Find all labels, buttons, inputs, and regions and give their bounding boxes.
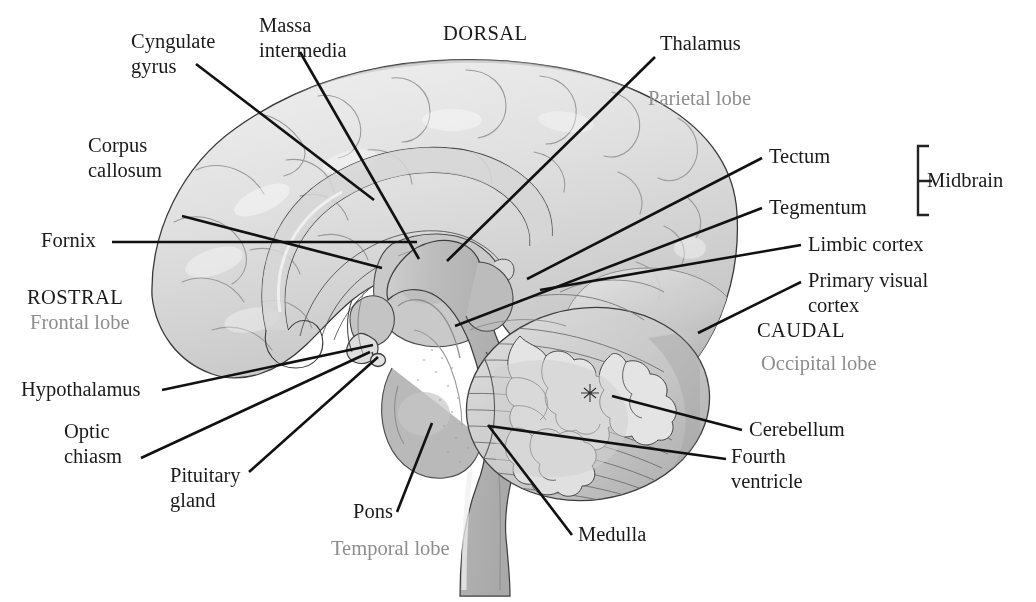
leader-pituitary-gland: [249, 357, 378, 472]
label-massa-intermedia: Massaintermedia: [259, 14, 347, 61]
label-thalamus: Thalamus: [660, 32, 741, 54]
label-frontal-lobe: Frontal lobe: [30, 311, 130, 333]
label-line: Midbrain: [927, 169, 1003, 191]
label-cerebellum: Cerebellum: [749, 418, 845, 440]
label-line: Tegmentum: [769, 196, 867, 219]
label-line: Fornix: [41, 229, 96, 251]
label-line: gyrus: [131, 55, 177, 78]
label-tegmentum: Tegmentum: [769, 196, 867, 219]
label-pituitary-gland: Pituitarygland: [170, 464, 241, 512]
label-midbrain: Midbrain: [927, 169, 1003, 191]
label-line: Medulla: [578, 523, 646, 545]
label-line: Cyngulate: [131, 30, 215, 53]
label-line: cortex: [808, 294, 859, 316]
label-line: Cerebellum: [749, 418, 845, 440]
label-line: Parietal lobe: [648, 87, 751, 109]
label-line: chiasm: [64, 445, 122, 467]
label-line: ventricle: [731, 470, 803, 492]
label-line: Optic: [64, 420, 110, 443]
label-line: Hypothalamus: [21, 378, 141, 401]
label-parietal-lobe: Parietal lobe: [648, 87, 751, 109]
label-line: callosum: [88, 159, 162, 181]
label-dorsal: DORSAL: [443, 22, 527, 44]
midsagittal-brain-illustration: CyngulategyrusMassaintermediaDORSALThala…: [0, 0, 1036, 602]
label-line: Pons: [353, 500, 393, 522]
label-corpus-callosum: Corpuscallosum: [88, 134, 162, 181]
label-line: Fourth: [731, 445, 786, 467]
label-line: Tectum: [769, 145, 830, 167]
brain-diagram-figure: CyngulategyrusMassaintermediaDORSALThala…: [0, 0, 1036, 602]
label-hypothalamus: Hypothalamus: [21, 378, 141, 401]
label-line: Primary visual: [808, 269, 928, 292]
label-line: Occipital lobe: [761, 352, 877, 375]
label-line: Thalamus: [660, 32, 741, 54]
label-rostral: ROSTRAL: [27, 286, 123, 308]
label-primary-visual-cortex: Primary visualcortex: [808, 269, 928, 316]
label-line: Limbic cortex: [808, 233, 924, 255]
label-line: Temporal lobe: [331, 537, 450, 560]
label-fourth-ventricle: Fourthventricle: [731, 445, 803, 492]
label-tectum: Tectum: [769, 145, 830, 167]
label-line: DORSAL: [443, 22, 527, 44]
label-fornix: Fornix: [41, 229, 96, 251]
label-caudal: CAUDAL: [757, 319, 845, 341]
label-occipital-lobe: Occipital lobe: [761, 352, 877, 375]
label-line: Corpus: [88, 134, 147, 157]
label-temporal-lobe: Temporal lobe: [331, 537, 450, 560]
hypothalamic-region: [347, 292, 395, 367]
label-medulla: Medulla: [578, 523, 646, 545]
label-limbic-cortex: Limbic cortex: [808, 233, 924, 255]
top-cropped-text: [0, 0, 1036, 5]
label-optic-chiasm: Opticchiasm: [64, 420, 122, 467]
label-line: gland: [170, 489, 216, 512]
label-line: intermedia: [259, 39, 347, 61]
label-pons: Pons: [353, 500, 393, 522]
label-line: Pituitary: [170, 464, 241, 487]
label-line: Frontal lobe: [30, 311, 130, 333]
label-line: CAUDAL: [757, 319, 845, 341]
label-cyngulate-gyrus: Cyngulategyrus: [131, 30, 215, 78]
label-line: ROSTRAL: [27, 286, 123, 308]
label-line: Massa: [259, 14, 311, 36]
